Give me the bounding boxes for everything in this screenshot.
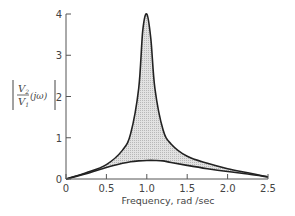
shaded-region (66, 14, 268, 179)
y-label-numerator: V2 (18, 83, 29, 95)
x-tick-label: 0.5 (98, 183, 114, 194)
y-tick-label: 0 (56, 174, 62, 185)
y-tick-label: 2 (56, 92, 62, 103)
x-tick-label: 2.5 (260, 183, 276, 194)
y-tick-label: 4 (56, 9, 62, 20)
y-tick-label: 1 (56, 133, 62, 144)
shaded-band (66, 14, 268, 179)
axes: 0123400.51.01.52.02.5 (56, 9, 276, 194)
y-tick-label: 3 (56, 50, 62, 61)
x-axis-title: Frequency, rad /sec (121, 195, 214, 206)
frequency-response-chart: 0123400.51.01.52.02.5 V2 V1 (jω) Frequen… (0, 0, 295, 216)
y-axis-title: V2 V1 (jω) (13, 80, 55, 110)
y-label-denominator: V1 (18, 96, 29, 108)
x-tick-label: 1.0 (139, 183, 155, 194)
x-tick-label: 0 (63, 183, 69, 194)
x-tick-label: 2.0 (220, 183, 236, 194)
y-label-argument: (jω) (30, 91, 48, 101)
x-tick-label: 1.5 (179, 183, 195, 194)
